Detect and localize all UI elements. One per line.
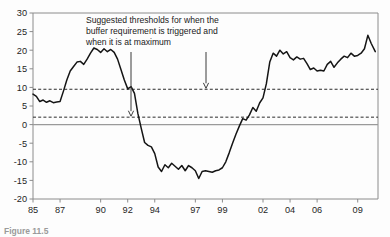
credit-gap-line-chart: 302520151050-5-10-15-2085879092949799020… — [0, 0, 390, 237]
annotation-line-2: buffer requirement is triggered and — [86, 26, 218, 36]
x-tick-label: 87 — [55, 205, 65, 215]
caption-label: Figure 11.5 — [4, 226, 49, 236]
x-tick-label: 94 — [150, 205, 160, 215]
x-tick-label: 06 — [312, 205, 322, 215]
y-tick-label: 0 — [22, 120, 27, 130]
x-tick-label: 99 — [217, 205, 227, 215]
y-tick-label: 30 — [17, 8, 27, 18]
y-tick-label: -5 — [19, 139, 27, 149]
y-tick-label: 20 — [17, 46, 27, 56]
y-tick-label: -20 — [14, 194, 27, 204]
figure-caption: Figure 11.5 — [4, 226, 49, 236]
y-tick-label: -15 — [14, 176, 27, 186]
x-tick-label: 09 — [353, 205, 363, 215]
x-tick-label: 97 — [190, 205, 200, 215]
x-tick-label: 85 — [28, 205, 38, 215]
y-tick-label: 5 — [22, 101, 27, 111]
x-tick-label: 04 — [285, 205, 295, 215]
x-tick-label: 02 — [258, 205, 268, 215]
annotation-line-3: when it is at maximum — [85, 37, 171, 47]
y-tick-label: 15 — [17, 64, 27, 74]
y-tick-label: 25 — [17, 27, 27, 37]
y-tick-label: -10 — [14, 157, 27, 167]
y-tick-label: 10 — [17, 83, 27, 93]
figure-container: 302520151050-5-10-15-2085879092949799020… — [0, 0, 390, 237]
x-tick-label: 90 — [96, 205, 106, 215]
x-tick-label: 92 — [123, 205, 133, 215]
annotation-line-1: Suggested thresholds for when the — [86, 15, 219, 25]
